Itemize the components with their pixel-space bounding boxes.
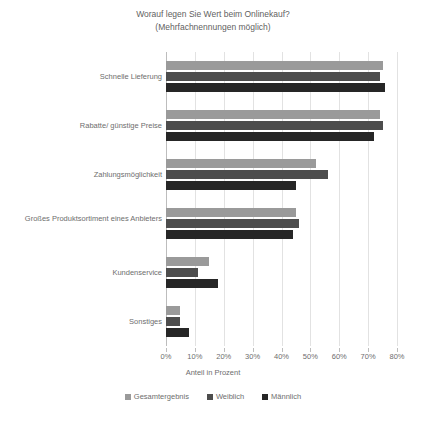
category-label: Großes Produktsortiment eines Anbieters xyxy=(2,214,162,224)
bar xyxy=(166,72,380,81)
chart-title: Worauf legen Sie Wert beim Onlinekauf? xyxy=(0,8,426,21)
bar xyxy=(166,181,296,190)
bar xyxy=(166,230,293,239)
bar xyxy=(166,61,383,70)
x-tick-label: 0% xyxy=(161,352,172,361)
chart-container: Worauf legen Sie Wert beim Onlinekauf? (… xyxy=(0,0,426,422)
legend-label: Männlich xyxy=(271,392,301,401)
legend-swatch xyxy=(125,394,131,400)
bar xyxy=(166,317,180,326)
chart-title-block: Worauf legen Sie Wert beim Onlinekauf? (… xyxy=(0,8,426,33)
bar xyxy=(166,170,328,179)
bar xyxy=(166,257,209,266)
x-tick-label: 80% xyxy=(389,352,404,361)
legend-item[interactable]: Männlich xyxy=(262,392,301,401)
bar-group xyxy=(166,306,397,337)
bar-group xyxy=(166,159,397,190)
bar xyxy=(166,110,380,119)
x-tick-label: 70% xyxy=(361,352,376,361)
x-tick-label: 40% xyxy=(274,352,289,361)
chart-legend: GesamtergebnisWeiblichMännlich xyxy=(0,392,426,401)
bar xyxy=(166,306,180,315)
gridline xyxy=(397,52,398,346)
x-tick-label: 30% xyxy=(245,352,260,361)
x-axis-ticks: 0%10%20%30%40%50%60%70%80% xyxy=(166,352,397,364)
category-axis-labels: Schnelle LieferungRabatte/ günstige Prei… xyxy=(0,52,162,346)
category-label: Rabatte/ günstige Preise xyxy=(2,121,162,131)
x-tick-label: 20% xyxy=(216,352,231,361)
legend-item[interactable]: Gesamtergebnis xyxy=(125,392,189,401)
bar xyxy=(166,279,218,288)
legend-label: Gesamtergebnis xyxy=(134,392,189,401)
x-tick-label: 50% xyxy=(303,352,318,361)
bar-group xyxy=(166,208,397,239)
bar-group xyxy=(166,257,397,288)
category-label: Zahlungsmöglichkeit xyxy=(2,170,162,180)
bar-group xyxy=(166,110,397,141)
legend-item[interactable]: Weiblich xyxy=(207,392,244,401)
category-label: Schnelle Lieferung xyxy=(2,72,162,82)
bar xyxy=(166,268,198,277)
bar xyxy=(166,83,385,92)
legend-label: Weiblich xyxy=(216,392,244,401)
bar xyxy=(166,132,374,141)
bar xyxy=(166,121,383,130)
plot-area xyxy=(166,52,397,346)
category-label: Kundenservice xyxy=(2,268,162,278)
x-tick-label: 10% xyxy=(187,352,202,361)
bar xyxy=(166,219,299,228)
x-tick-label: 60% xyxy=(332,352,347,361)
category-label: Sonstiges xyxy=(2,317,162,327)
chart-subtitle: (Mehrfachnennungen möglich) xyxy=(0,21,426,34)
bar xyxy=(166,208,296,217)
bar xyxy=(166,328,189,337)
x-axis-label: Anteil in Prozent xyxy=(0,368,426,377)
bar-groups xyxy=(166,52,397,346)
legend-swatch xyxy=(262,394,268,400)
bar-group xyxy=(166,61,397,92)
bar xyxy=(166,159,316,168)
legend-swatch xyxy=(207,394,213,400)
